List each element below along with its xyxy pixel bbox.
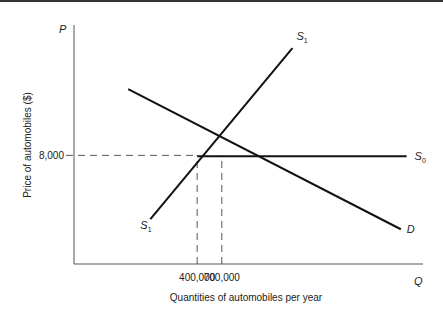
x-axis-label: Quantities of automobiles per year — [170, 292, 323, 303]
y-axis-label: Price of automobiles ($) — [22, 92, 33, 198]
y-axis-symbol: P — [59, 23, 67, 35]
series-line-d — [128, 89, 401, 229]
x-axis-symbol: Q — [414, 275, 423, 287]
series-line-s1 — [150, 48, 292, 219]
series-label-s1-0: S1 — [296, 30, 307, 44]
series-label-s1-1: S1 — [140, 219, 151, 233]
series-label-d-0: D — [407, 223, 415, 235]
series-label-s0-0: S0 — [415, 150, 426, 164]
y-tick-label-0: 8,000 — [39, 150, 64, 161]
x-tick-label-1: 700,000 — [204, 272, 241, 283]
supply-demand-chart: S1S1S0D 400,000700,0008,000 P Q Quantiti… — [0, 0, 443, 314]
